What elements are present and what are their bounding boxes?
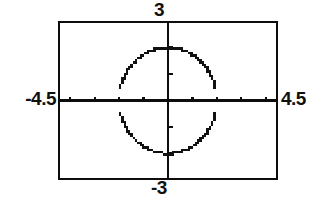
calculator-screen: 3 -3 -4.5 4.5 <box>0 0 316 202</box>
y-min-label: -3 <box>1 178 316 197</box>
x-min-label: -4.5 <box>2 89 56 108</box>
plot-area <box>58 21 278 180</box>
y-max-label: 3 <box>1 0 316 19</box>
x-max-label: 4.5 <box>281 89 315 108</box>
